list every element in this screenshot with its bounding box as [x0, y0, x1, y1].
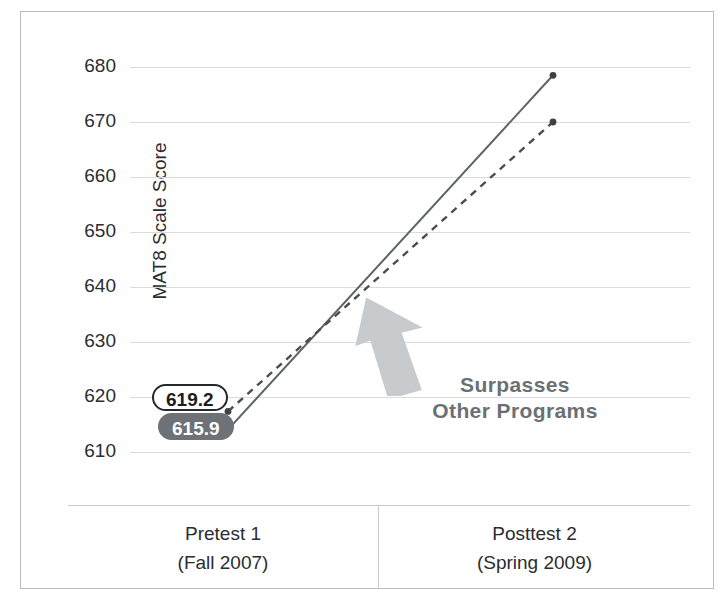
callout-619-2: 619.2 [152, 384, 228, 411]
y-tick-640: 640 [46, 275, 116, 297]
plot-area: MAT8 Scale Score 680 670 660 650 640 630… [130, 60, 690, 512]
y-tick-650: 650 [46, 220, 116, 242]
annotation-line-1: Surpasses [460, 373, 570, 396]
y-tick-630: 630 [46, 330, 116, 352]
x-category-posttest-name: Posttest 2 [492, 523, 577, 544]
y-tick-670: 670 [46, 110, 116, 132]
chart-title [21, 0, 713, 10]
y-tick-620: 620 [46, 385, 116, 407]
x-axis-line [68, 505, 690, 506]
series-layer [130, 60, 690, 512]
annotation-line-2: Other Programs [395, 398, 635, 424]
x-category-posttest: Posttest 2 (Spring 2009) [379, 519, 690, 577]
y-tick-660: 660 [46, 165, 116, 187]
callout-615-9: 615.9 [158, 413, 234, 440]
annotation-text: Surpasses Other Programs [395, 372, 635, 424]
dashed-series-point-posttest [550, 119, 557, 126]
x-category-pretest: Pretest 1 (Fall 2007) [68, 519, 378, 577]
y-tick-680: 680 [46, 55, 116, 77]
solid-series-point-posttest [550, 72, 557, 79]
x-category-pretest-sub: (Fall 2007) [68, 548, 378, 577]
y-tick-610: 610 [46, 440, 116, 462]
x-category-pretest-name: Pretest 1 [185, 523, 261, 544]
x-category-posttest-sub: (Spring 2009) [379, 548, 690, 577]
chart-figure: MAT8 Scale Score 680 670 660 650 640 630… [0, 0, 726, 601]
